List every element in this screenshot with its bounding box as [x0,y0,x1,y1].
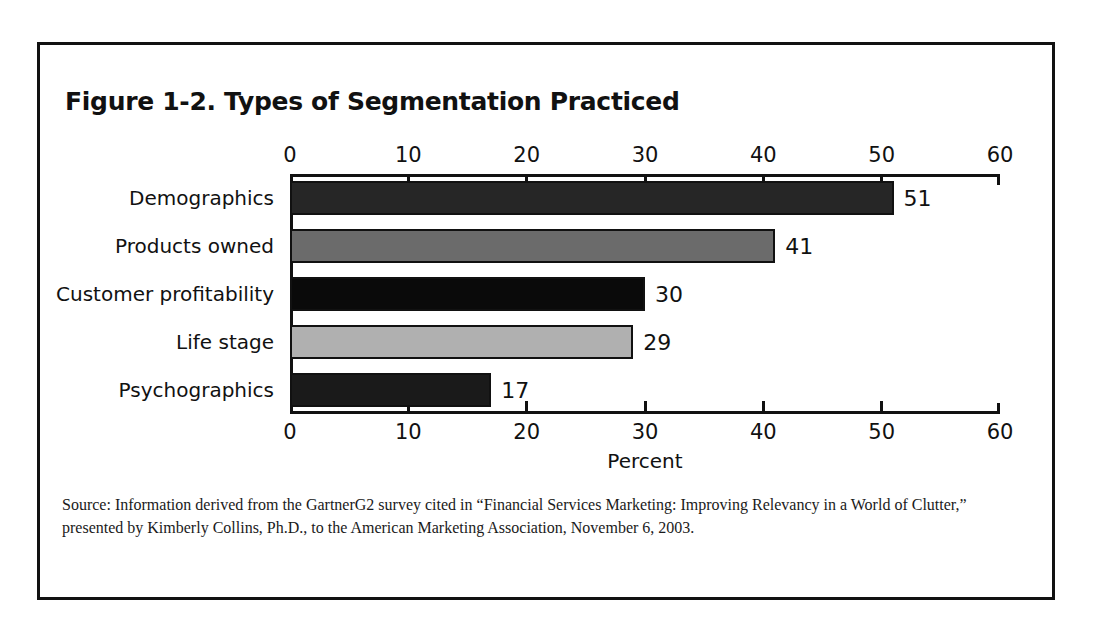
bar [290,325,633,359]
x-tick-label-top: 20 [513,143,540,167]
bar-value-label: 41 [785,234,813,259]
category-label: Life stage [176,330,274,354]
bar-value-label: 30 [655,282,683,307]
bar [290,373,491,407]
x-tick-label-top: 60 [987,143,1014,167]
x-tick-label-top: 50 [868,143,895,167]
category-label: Products owned [115,234,274,258]
x-tick-bottom [880,401,883,411]
x-tick-label-top: 0 [283,143,296,167]
x-tick-label-bottom: 20 [513,420,540,444]
axis-endcap-bottom-right [997,403,1000,414]
bar [290,229,775,263]
category-label: Demographics [129,186,274,210]
source-note: Source: Information derived from the Gar… [62,494,1022,539]
x-tick-label-top: 30 [632,143,659,167]
x-tick-bottom [525,401,528,411]
x-tick-label-top: 40 [750,143,777,167]
x-tick-label-bottom: 40 [750,420,777,444]
bar-value-label: 51 [904,186,932,211]
x-tick-label-top: 10 [395,143,422,167]
x-tick-bottom [762,401,765,411]
x-tick-label-bottom: 10 [395,420,422,444]
bar [290,277,645,311]
figure-frame: Figure 1-2. Types of Segmentation Practi… [37,42,1055,600]
x-tick-label-bottom: 0 [283,420,296,444]
category-axis-labels: DemographicsProducts ownedCustomer profi… [40,174,274,414]
x-tick-bottom [644,401,647,411]
bar [290,181,894,215]
x-tick-label-bottom: 50 [868,420,895,444]
x-tick-label-bottom: 30 [632,420,659,444]
bar-value-label: 17 [501,378,529,403]
category-label: Psychographics [119,378,274,402]
axis-endcap-top-right [997,174,1000,185]
figure-screenshot: Figure 1-2. Types of Segmentation Practi… [0,0,1094,640]
bar-value-label: 29 [643,330,671,355]
axis-line-bottom [290,411,1000,414]
source-note-line-2: presented by Kimberly Collins, Ph.D., to… [62,517,1022,540]
source-note-line-1: Source: Information derived from the Gar… [62,494,1022,517]
x-axis-title: Percent [290,449,1000,473]
plot-area: 001010202030304040505060605141302917 [290,174,1000,414]
category-label: Customer profitability [56,282,274,306]
x-tick-label-bottom: 60 [987,420,1014,444]
